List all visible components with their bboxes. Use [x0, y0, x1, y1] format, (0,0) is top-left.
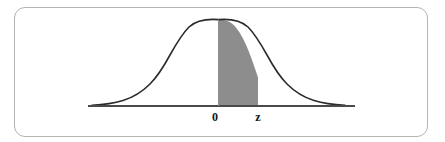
normal-distribution-figure: 0 z	[0, 0, 445, 142]
axis-label-zscore: z	[246, 110, 270, 124]
axis-label-mean: 0	[203, 110, 227, 124]
